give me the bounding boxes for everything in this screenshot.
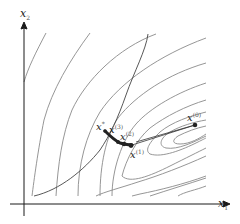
contour-lines bbox=[24, 33, 206, 196]
contour-2 bbox=[32, 33, 90, 196]
label-x3: x(3) bbox=[109, 124, 123, 135]
y-axis-label: x2 bbox=[20, 8, 30, 21]
contour-1 bbox=[24, 33, 46, 82]
contour-14 bbox=[150, 178, 206, 196]
label-xstar: x* bbox=[96, 121, 105, 132]
contour-13 bbox=[178, 186, 206, 196]
contour-12 bbox=[132, 176, 206, 196]
y-axis-arrow-icon bbox=[21, 22, 27, 29]
label-x0: x(0) bbox=[187, 112, 201, 123]
contour-10 bbox=[174, 126, 206, 144]
constraint-curve bbox=[34, 34, 148, 196]
point-x2 bbox=[122, 142, 126, 146]
point-x1 bbox=[129, 143, 134, 148]
x-axis-label: x1 bbox=[218, 198, 228, 211]
optimization-path bbox=[124, 125, 195, 145]
label-x1: x(1) bbox=[130, 149, 144, 160]
point-x0 bbox=[193, 123, 198, 128]
contour-11 bbox=[96, 156, 206, 196]
contour-diagram bbox=[0, 0, 240, 224]
